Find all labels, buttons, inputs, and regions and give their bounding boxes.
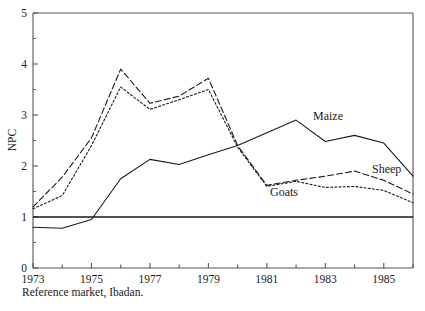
y-tick-label: 3	[21, 109, 27, 121]
y-tick-label: 2	[21, 160, 27, 172]
figure-container: 0123451973197519771979198119831985 Maize…	[0, 0, 425, 311]
series-label-sheep: Sheep	[372, 162, 401, 176]
x-tick-label: 1977	[138, 273, 161, 285]
npc-line-chart: 0123451973197519771979198119831985 Maize…	[0, 0, 425, 311]
series-label-goats: Goats	[270, 185, 298, 199]
x-tick-label: 1981	[255, 273, 278, 285]
x-tick-label: 1975	[80, 273, 103, 285]
series-label-maize: Maize	[313, 109, 343, 123]
y-axis-title-text: NPC	[6, 128, 18, 151]
plot-background	[0, 0, 425, 311]
y-tick-label: 4	[21, 58, 27, 70]
figure-caption: Reference market, Ibadan.	[22, 286, 143, 298]
y-axis-title: NPC	[6, 128, 18, 151]
y-tick-label: 1	[21, 211, 27, 223]
x-tick-label: 1985	[372, 273, 395, 285]
y-tick-label: 5	[21, 7, 27, 19]
x-tick-label: 1979	[197, 273, 220, 285]
x-tick-label: 1983	[314, 273, 337, 285]
x-tick-label: 1973	[22, 273, 45, 285]
